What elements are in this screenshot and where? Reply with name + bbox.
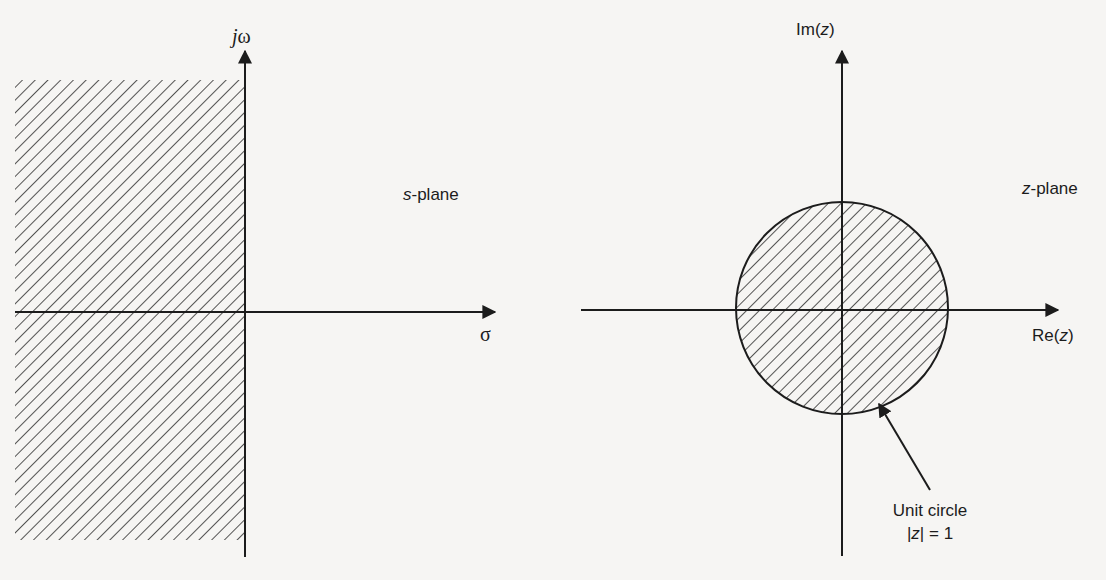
diagram-graphics [0, 0, 1106, 580]
z-plane-title: z-plane [1022, 180, 1078, 197]
im-suffix: ) [829, 20, 835, 39]
title-suffix: -plane [412, 185, 459, 204]
s-plane-title: s-plane [403, 186, 459, 203]
title-var-s: s [403, 185, 412, 204]
unit-circle-leader-arrow [879, 404, 930, 490]
re-prefix: Re( [1032, 326, 1059, 345]
label-omega: ω [238, 25, 251, 47]
im-prefix: Im( [796, 20, 821, 39]
s-to-z-plane-diagram: jω s-plane σ Im(z) z-plane Re(z) Unit ci… [0, 0, 1106, 580]
s-plane [15, 51, 495, 557]
z-plane-imag-axis-label: Im(z) [796, 21, 835, 38]
s-plane-stable-region-hatch [15, 80, 245, 540]
re-suffix: ) [1068, 326, 1074, 345]
im-var: z [821, 20, 830, 39]
label-sigma: σ [480, 323, 491, 345]
annotation-text: Unit circle [893, 501, 968, 520]
title-var-z: z [1022, 179, 1031, 198]
s-plane-imag-axis-label: jω [232, 26, 251, 46]
z-plane-real-axis-label: Re(z) [1032, 327, 1074, 344]
title-suffix: -plane [1031, 179, 1078, 198]
s-plane-real-axis-label: σ [480, 324, 491, 344]
re-var: z [1059, 326, 1068, 345]
z-plane [581, 51, 1058, 556]
abs-close-eq: | = 1 [920, 524, 953, 543]
unit-circle-annotation-line2: |z| = 1 [907, 525, 953, 542]
abs-var: z [911, 524, 920, 543]
unit-circle-annotation-line1: Unit circle [893, 502, 968, 519]
